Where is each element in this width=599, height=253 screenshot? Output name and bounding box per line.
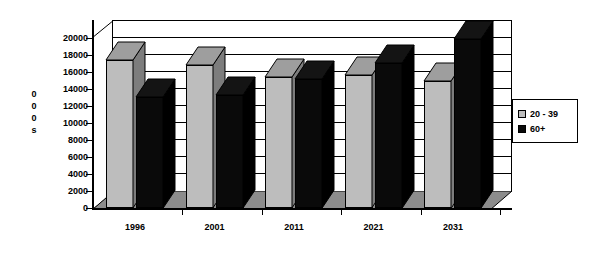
bar-front-face [216, 95, 244, 208]
x-axis-label-2011: 2011 [284, 222, 304, 232]
y-axis-line [92, 20, 94, 210]
legend-item-2[interactable]: 60+ [518, 124, 572, 134]
bar-2021-black [375, 45, 403, 208]
bar-front-face [136, 97, 164, 208]
gridline [112, 20, 512, 21]
bar-top-face [136, 78, 176, 98]
bar-front-face [375, 63, 403, 208]
bar-top-face [295, 60, 335, 80]
gridline [112, 54, 512, 55]
x-axis-category-labels: 19962001201120212031 [92, 222, 512, 238]
bar-2031-black [454, 21, 482, 208]
bar-chart: 000s 20000180001600014000120001000080006… [0, 0, 599, 253]
x-axis-tick-mark [421, 208, 422, 215]
y-axis-tick-label: 18000 [36, 50, 88, 60]
bar-front-face [295, 79, 323, 208]
x-axis-tick-mark [182, 208, 183, 215]
bar-front-face [454, 39, 482, 208]
bar-2011-gray [265, 59, 293, 208]
bar-side-face [322, 61, 334, 208]
bar-2011-black [295, 61, 323, 208]
y-axis-tick-label: 20000 [36, 33, 88, 43]
y-axis-tick-label: 8000 [36, 135, 88, 145]
x-axis-line [92, 208, 512, 210]
bar-2001-black [216, 77, 244, 208]
x-axis-tick-mark [341, 208, 342, 215]
legend-item-1[interactable]: 20 - 39 [518, 109, 572, 119]
y-axis-tick-labels: 2000018000160001400012000100008000600040… [36, 14, 88, 214]
bar-side-face [243, 77, 255, 208]
bar-top-face [375, 44, 415, 64]
bar-2021-gray [345, 57, 373, 208]
bar-front-face [186, 65, 214, 208]
y-axis-tick-label: 10000 [36, 118, 88, 128]
bar-side-face [163, 79, 175, 208]
y-axis-tick-label: 16000 [36, 67, 88, 77]
bar-front-face [345, 75, 373, 208]
bar-side-face [402, 45, 414, 208]
bar-top-face [216, 76, 256, 96]
y-axis-tick-label: 4000 [36, 169, 88, 179]
legend-swatch-icon [518, 110, 526, 118]
x-axis-label-1996: 1996 [125, 222, 145, 232]
bar-2001-gray [186, 47, 214, 208]
x-axis-label-2021: 2021 [363, 222, 383, 232]
bar-top-face [106, 41, 146, 61]
x-axis-label-2031: 2031 [443, 222, 463, 232]
legend-label: 20 - 39 [530, 109, 558, 119]
bar-front-face [106, 60, 134, 208]
x-axis-tick-mark [500, 208, 501, 215]
x-axis-tick-mark [262, 208, 263, 215]
y-axis-tick-label: 14000 [36, 84, 88, 94]
bar-top-face [454, 20, 494, 40]
bar-1996-black [136, 79, 164, 208]
bar-1996-gray [106, 42, 134, 208]
y-axis-tick-label: 12000 [36, 101, 88, 111]
bar-front-face [265, 77, 293, 208]
bar-top-face [186, 46, 226, 66]
legend-swatch-icon [518, 125, 526, 133]
bar-2031-gray [424, 63, 452, 209]
gridline [112, 37, 512, 38]
bar-front-face [424, 81, 452, 209]
legend-label: 60+ [530, 124, 545, 134]
y-axis-tick-label: 6000 [36, 152, 88, 162]
plot-area [92, 20, 512, 208]
chart-legend: 20 - 3960+ [512, 99, 578, 143]
y-axis-tick-label: 0 [36, 203, 88, 213]
x-axis-label-2001: 2001 [204, 222, 224, 232]
y-axis-tick-label: 2000 [36, 186, 88, 196]
bar-side-face [481, 21, 493, 208]
